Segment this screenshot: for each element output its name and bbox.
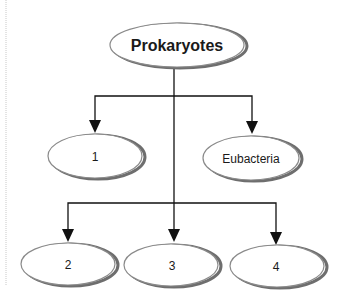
arrow-to-eubacteria: [246, 121, 258, 134]
node-label: 2: [65, 258, 72, 272]
node-label: Prokaryotes: [131, 37, 224, 54]
node-1: 1: [48, 134, 145, 179]
node-eubacteria: Eubacteria: [203, 136, 302, 181]
node-4: 4: [230, 245, 327, 288]
node-3: 3: [124, 244, 221, 287]
node-label: Eubacteria: [222, 152, 280, 166]
node-2: 2: [21, 243, 118, 286]
arrow-to-1: [89, 120, 101, 133]
node-label: 3: [169, 259, 176, 273]
arrow-to-3: [168, 229, 180, 242]
prokaryotes-tree-diagram: Prokaryotes 1 Eubacteria 2 3 4: [0, 0, 341, 300]
node-label: 1: [92, 150, 99, 164]
arrow-to-2: [62, 229, 74, 242]
node-prokaryotes: Prokaryotes: [110, 23, 247, 68]
arrow-to-4: [270, 232, 282, 245]
node-label: 4: [273, 260, 280, 274]
